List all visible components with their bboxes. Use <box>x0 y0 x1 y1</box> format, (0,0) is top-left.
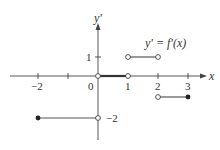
closed-dot-icon <box>186 95 191 100</box>
x-tick-label-3: 3 <box>185 81 191 92</box>
y-tick-label-neg2: −2 <box>106 113 118 124</box>
open-dot-icon <box>96 74 101 79</box>
x-tick-label-0: 0 <box>88 81 94 92</box>
y-axis-label: y' <box>94 12 102 24</box>
open-dot-icon <box>126 74 131 79</box>
open-dot-icon <box>96 116 101 121</box>
x-tick-label-neg2: −2 <box>31 81 43 92</box>
open-dot-icon <box>156 55 161 60</box>
x-tick-label-2: 2 <box>155 81 161 92</box>
function-plot <box>0 0 220 150</box>
closed-dot-icon <box>36 116 41 121</box>
x-tick-label-1: 1 <box>125 81 131 92</box>
y-tick-label-1: 1 <box>86 52 92 63</box>
equation-label: y' = f'(x) <box>145 37 186 49</box>
x-axis-label: x <box>209 70 214 82</box>
open-dot-icon <box>156 95 161 100</box>
x-axis-arrow-icon <box>200 74 207 79</box>
open-dot-icon <box>126 55 131 60</box>
